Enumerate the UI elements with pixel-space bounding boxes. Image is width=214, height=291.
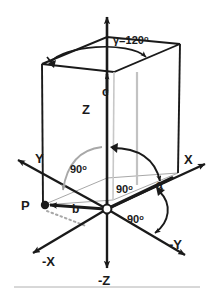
angle-arc-z-a — [110, 143, 160, 181]
angle-label-a-negy: 90o — [127, 213, 144, 226]
gamma-angle-label: γ=120o — [113, 34, 149, 47]
axis-y-arrow — [18, 160, 107, 209]
axis-label-x: X — [184, 152, 193, 167]
axis-label-y: Y — [35, 151, 44, 166]
crystal-axes-figure: γ=120o Z c Y X -X -Y -Z a b P 90o 90o 90… — [0, 0, 214, 291]
vector-label-a: a — [156, 178, 163, 192]
box-edge-left — [42, 64, 43, 205]
axis-neg-x-arrow — [33, 209, 107, 253]
vector-label-b: b — [72, 202, 79, 216]
origin-marker — [103, 205, 112, 214]
point-p-marker — [41, 201, 49, 209]
box-edge-right — [178, 44, 180, 173]
axis-label-neg-z: -Z — [98, 273, 110, 288]
axis-label-z: Z — [82, 102, 90, 117]
point-label-p: P — [21, 198, 30, 213]
vector-label-c: c — [102, 85, 109, 99]
angle-arc-a-negy — [155, 187, 168, 233]
angle-label-z-b: 90o — [70, 163, 87, 176]
axis-label-neg-y: -Y — [169, 237, 182, 252]
axis-label-neg-x: -X — [42, 254, 55, 269]
box-edge-front-gray — [113, 72, 114, 200]
axes-diagram-svg: γ=120o Z c Y X -X -Y -Z a b P 90o 90o 90… — [0, 0, 214, 291]
